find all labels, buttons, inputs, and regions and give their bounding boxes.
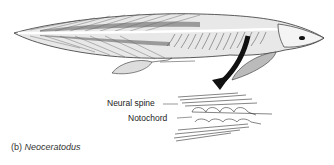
notochord-label: Notochord [128, 114, 167, 123]
notochord-leader [177, 117, 192, 118]
neural-spine-label: Neural spine [107, 99, 155, 108]
caption-genus: Neoceratodus [25, 142, 81, 152]
caption-prefix: (b) [11, 142, 22, 152]
fish-body [14, 14, 324, 59]
eye-icon [299, 36, 305, 40]
lungfish-skeleton-diagram [0, 0, 334, 165]
pelvic-fin [112, 58, 195, 74]
figure-caption: (b) Neoceratodus [11, 142, 81, 152]
